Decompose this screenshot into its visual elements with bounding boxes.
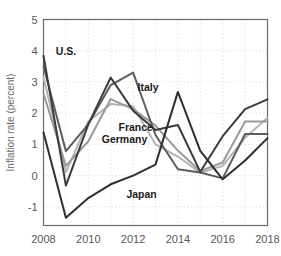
y-tick-label: 0 — [31, 170, 37, 182]
y-axis-tick-labels: -1012345 — [28, 14, 38, 213]
y-tick-label: 1 — [31, 138, 37, 150]
series-label-us: U.S. — [56, 45, 77, 57]
inflation-rate-line-chart: U.S.ItalyFranceGermanyJapan -1012345 200… — [0, 0, 281, 256]
y-tick-label: 4 — [31, 45, 37, 57]
x-tick-label: 2016 — [210, 233, 234, 245]
x-tick-label: 2008 — [31, 233, 55, 245]
x-tick-label: 2010 — [76, 233, 100, 245]
series-label-italy: Italy — [138, 81, 159, 93]
series-label-germany: Germany — [102, 133, 148, 145]
y-axis-title-text: Inflation rate (percent) — [5, 74, 16, 172]
x-axis-tick-labels: 200820102012201420162018 — [31, 233, 279, 245]
y-tick-label: 3 — [31, 76, 37, 88]
series-label-japan: Japan — [126, 188, 156, 200]
x-tick-label: 2014 — [166, 233, 190, 245]
x-tick-label: 2018 — [255, 233, 279, 245]
chart-canvas: U.S.ItalyFranceGermanyJapan -1012345 200… — [0, 0, 281, 256]
y-tick-label: 2 — [31, 107, 37, 119]
y-tick-label: 5 — [31, 14, 37, 26]
y-axis-title: Inflation rate (percent) — [5, 74, 16, 172]
y-tick-label: -1 — [28, 201, 38, 213]
series-label-france: France — [119, 121, 154, 133]
x-tick-label: 2012 — [121, 233, 145, 245]
